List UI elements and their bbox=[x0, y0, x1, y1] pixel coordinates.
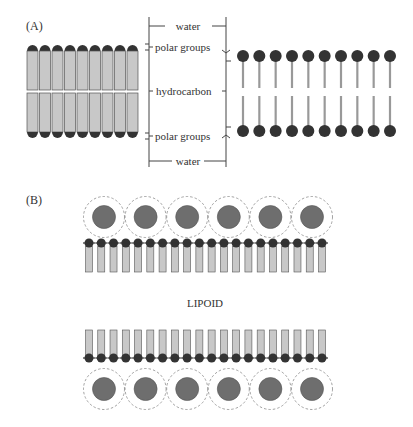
lipid-tail bbox=[147, 330, 154, 356]
lipid-tail bbox=[184, 246, 191, 272]
hydrocarbon-rod-lower bbox=[127, 93, 138, 132]
polar-head-cap-bottom bbox=[115, 132, 126, 138]
hydrocarbon-rod-lower bbox=[115, 93, 126, 132]
lipid-head-upper bbox=[286, 50, 298, 62]
particle bbox=[93, 206, 116, 229]
hydrocarbon-rod-lower bbox=[102, 93, 113, 132]
lipid-tail bbox=[171, 246, 178, 272]
lipid-tail bbox=[98, 330, 105, 356]
polar-groups-bottom-label: polar groups bbox=[155, 130, 210, 142]
lipid-head-lower bbox=[302, 125, 314, 137]
panel-b-label: (B) bbox=[26, 193, 42, 207]
particle bbox=[217, 206, 240, 229]
particle bbox=[301, 378, 324, 401]
lipid-tail bbox=[319, 330, 326, 356]
particle bbox=[176, 378, 199, 401]
lipid-tail bbox=[257, 330, 264, 356]
polar-head-cap-top bbox=[77, 45, 88, 51]
hydrocarbon-label: hydrocarbon bbox=[156, 85, 212, 97]
particle bbox=[259, 378, 282, 401]
lipid-head-upper bbox=[335, 50, 347, 62]
lipid-tail bbox=[196, 330, 203, 356]
lipid-tail bbox=[86, 246, 93, 272]
lipid-head-upper bbox=[319, 50, 331, 62]
hydrocarbon-rod-lower bbox=[52, 93, 63, 132]
hydrocarbon-rod-upper bbox=[52, 51, 63, 90]
lipid-tail bbox=[269, 246, 276, 272]
lipid-tail bbox=[306, 246, 313, 272]
lipid-head-lower bbox=[270, 125, 282, 137]
lipid-tail bbox=[122, 330, 129, 356]
lipid-tail bbox=[110, 330, 117, 356]
hydrocarbon-rod-upper bbox=[65, 51, 76, 90]
lipid-head-upper bbox=[253, 50, 265, 62]
lipid-tail bbox=[208, 330, 215, 356]
lipid-tail bbox=[196, 246, 203, 272]
panel-a-label: (A) bbox=[26, 19, 43, 33]
particle bbox=[301, 206, 324, 229]
water-bottom-label: water bbox=[176, 155, 201, 167]
lipid-head-lower bbox=[286, 125, 298, 137]
polar-head-cap-bottom bbox=[102, 132, 113, 138]
polar-top-right-mark-1 bbox=[222, 50, 226, 53]
polar-head-cap-top bbox=[115, 45, 126, 51]
lipid-tail bbox=[135, 246, 142, 272]
polar-bottom-right-mark-2 bbox=[222, 135, 226, 138]
lipid-tail bbox=[220, 330, 227, 356]
lipoid-label: LIPOID bbox=[187, 297, 223, 309]
polar-head-cap-bottom bbox=[77, 132, 88, 138]
polar-head-cap-bottom bbox=[127, 132, 138, 138]
polar-head-cap-top bbox=[27, 45, 38, 51]
polar-head-cap-top bbox=[40, 45, 51, 51]
particle bbox=[259, 206, 282, 229]
lipid-head-lower bbox=[253, 125, 265, 137]
lipid-tail bbox=[220, 246, 227, 272]
polar-head-cap-bottom bbox=[65, 132, 76, 138]
lipid-head-lower bbox=[384, 125, 396, 137]
hydrocarbon-rod-upper bbox=[102, 51, 113, 90]
lipid-tail bbox=[233, 330, 240, 356]
lipid-tail bbox=[319, 246, 326, 272]
polar-head-cap-top bbox=[102, 45, 113, 51]
particle bbox=[134, 206, 157, 229]
hydrocarbon-rod-lower bbox=[90, 93, 101, 132]
lipid-tail bbox=[208, 246, 215, 272]
polar-head-cap-bottom bbox=[90, 132, 101, 138]
polar-head-cap-bottom bbox=[52, 132, 63, 138]
lipid-tail bbox=[159, 330, 166, 356]
bottom-monolayer-group bbox=[83, 330, 333, 410]
bilayer-rods bbox=[27, 45, 138, 138]
lipid-tail bbox=[184, 330, 191, 356]
top-monolayer-group bbox=[83, 197, 333, 273]
bilayer-lollipops bbox=[237, 50, 396, 137]
hydrocarbon-rod-upper bbox=[77, 51, 88, 90]
water-top-label: water bbox=[176, 20, 201, 32]
polar-head-cap-top bbox=[90, 45, 101, 51]
lipid-head-upper bbox=[384, 50, 396, 62]
lipid-tail bbox=[257, 246, 264, 272]
particle bbox=[134, 378, 157, 401]
lipid-tail bbox=[135, 330, 142, 356]
polar-head-cap-top bbox=[52, 45, 63, 51]
hydrocarbon-rod-upper bbox=[40, 51, 51, 90]
hydrocarbon-rod-lower bbox=[40, 93, 51, 132]
lipid-head-upper bbox=[237, 50, 249, 62]
particle bbox=[217, 378, 240, 401]
polar-top-right-mark-2 bbox=[226, 50, 230, 53]
lipid-tail bbox=[269, 330, 276, 356]
lipid-tail bbox=[147, 246, 154, 272]
polar-groups-top-label: polar groups bbox=[155, 41, 210, 53]
lipid-tail bbox=[233, 246, 240, 272]
hydrocarbon-rod-upper bbox=[127, 51, 138, 90]
lipid-head-lower bbox=[319, 125, 331, 137]
polar-head-cap-top bbox=[127, 45, 138, 51]
hydrocarbon-rod-lower bbox=[65, 93, 76, 132]
polar-head-cap-bottom bbox=[40, 132, 51, 138]
hydrocarbon-rod-lower bbox=[77, 93, 88, 132]
polar-head-cap-top bbox=[65, 45, 76, 51]
lipid-tail bbox=[245, 330, 252, 356]
particle bbox=[176, 206, 199, 229]
hydrocarbon-rod-upper bbox=[115, 51, 126, 90]
lipid-tail bbox=[171, 330, 178, 356]
lipid-head-lower bbox=[368, 125, 380, 137]
